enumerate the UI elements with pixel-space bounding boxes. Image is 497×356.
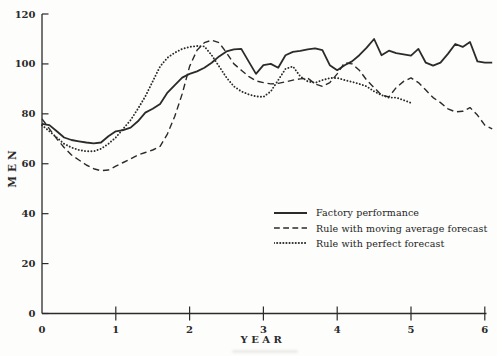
y-tick-label: 120 <box>15 9 36 20</box>
series-factory-performance <box>42 39 492 143</box>
x-tick-label: 2 <box>186 324 193 335</box>
y-tick-label: 60 <box>22 158 36 169</box>
y-tick-label: 0 <box>29 308 36 319</box>
legend-row-perfect-forecast: Rule with perfect forecast <box>274 236 487 251</box>
figure-page: 0204060801001200123456 MEN YEAR Factory … <box>0 0 497 356</box>
x-tick-label: 1 <box>112 324 119 335</box>
legend-label: Rule with moving average forecast <box>316 223 487 234</box>
scan-smudge <box>232 350 298 353</box>
axes <box>42 14 487 313</box>
legend-row-moving-average: Rule with moving average forecast <box>274 220 487 235</box>
legend-label: Factory performance <box>316 207 419 218</box>
y-tick-label: 80 <box>22 108 36 119</box>
x-tick-label: 4 <box>334 324 341 335</box>
y-axis-title: MEN <box>6 137 20 197</box>
axis-tick-labels: 0204060801001200123456 <box>15 9 489 335</box>
series-lines <box>42 39 492 171</box>
y-tick-label: 40 <box>22 208 36 219</box>
y-tick-label: 20 <box>22 258 36 269</box>
legend: Factory performance Rule with moving ave… <box>274 205 487 251</box>
dotted-line-icon <box>274 238 307 248</box>
legend-row-factory-performance: Factory performance <box>274 205 487 220</box>
solid-line-icon <box>274 208 307 218</box>
x-tick-label: 5 <box>408 324 415 335</box>
x-tick-label: 0 <box>39 324 46 335</box>
x-tick-label: 6 <box>481 324 488 335</box>
legend-label: Rule with perfect forecast <box>316 238 444 249</box>
dashed-line-icon <box>274 223 307 233</box>
line-chart: 0204060801001200123456 <box>0 0 497 356</box>
tick-marks <box>42 14 485 320</box>
series-rule-with-perfect-forecast <box>42 46 411 151</box>
y-tick-label: 100 <box>15 58 36 69</box>
x-axis-title: YEAR <box>223 334 303 345</box>
